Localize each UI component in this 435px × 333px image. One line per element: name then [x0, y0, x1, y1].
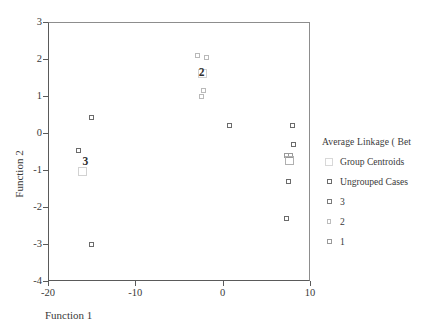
legend-item-group-centroids[interactable]: Group Centroids: [322, 156, 434, 167]
data-point-marker: [89, 115, 94, 120]
x-tick-mark: [48, 281, 49, 286]
data-point-marker: [291, 142, 296, 147]
data-point-marker: [199, 94, 204, 99]
x-tick-mark: [135, 281, 136, 286]
ungrouped-key-icon: [322, 179, 336, 184]
data-point-marker: [290, 123, 295, 128]
legend-item-label: Group Centroids: [340, 156, 404, 167]
legend-item-ungrouped-cases[interactable]: Ungrouped Cases: [322, 176, 434, 187]
x-tick-mark: [223, 281, 224, 286]
group1-key-icon: [322, 239, 336, 244]
centroid-key-icon: [322, 158, 336, 166]
legend-item-label: 2: [340, 216, 345, 227]
legend-item-group-3[interactable]: 3: [322, 196, 434, 207]
data-point-marker: [201, 88, 206, 93]
y-tick-label: -4: [16, 276, 42, 286]
legend-item-label: 3: [340, 196, 345, 207]
data-point-marker: [89, 242, 94, 247]
legend-item-label: 1: [340, 236, 345, 247]
group2-key-icon: [322, 219, 336, 224]
centroid-marker: [285, 156, 294, 165]
data-point-marker: [204, 55, 209, 60]
y-tick-label: 2: [16, 54, 42, 64]
x-tick-label: -10: [115, 288, 155, 298]
x-tick-label: -20: [28, 288, 68, 298]
data-point-marker: [286, 179, 291, 184]
scatter-plot-figure: 3 2 1 0 -1 -2 -3 -4 -20 -10 0 10 32 Func…: [0, 0, 435, 333]
legend-item-group-2[interactable]: 2: [322, 216, 434, 227]
legend-item-label: Ungrouped Cases: [340, 176, 408, 187]
x-axis-title: Function 1: [45, 309, 92, 321]
x-tick-mark: [310, 281, 311, 286]
plot-data-area: 32: [48, 22, 310, 281]
y-axis-title: Function 2: [13, 119, 25, 229]
group3-key-icon: [322, 199, 336, 204]
legend: Average Linkage ( Bet Group Centroids Un…: [322, 136, 434, 247]
data-point-marker: [227, 123, 232, 128]
data-point-marker: [284, 216, 289, 221]
centroid-marker: [78, 167, 87, 176]
y-tick-label: -3: [16, 239, 42, 249]
legend-item-group-1[interactable]: 1: [322, 236, 434, 247]
x-tick-label: 10: [290, 288, 330, 298]
y-tick-label: 3: [16, 17, 42, 27]
cluster-label: 2: [199, 67, 205, 78]
data-point-marker: [76, 148, 81, 153]
y-tick-label: 1: [16, 91, 42, 101]
cluster-label: 3: [83, 156, 89, 167]
x-tick-label: 0: [203, 288, 243, 298]
legend-title: Average Linkage ( Bet: [322, 136, 434, 147]
data-point-marker: [195, 53, 200, 58]
